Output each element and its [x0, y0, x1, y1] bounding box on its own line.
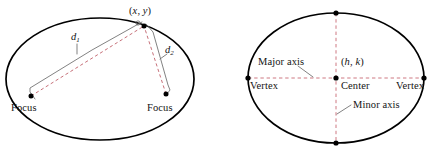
vertex-left-label: Vertex [250, 81, 278, 92]
ellipse-figure-container: (x, y) d1 d2 Focus Focus Major axis (h, … [0, 0, 441, 160]
distance-d1-label: d1 [71, 32, 80, 44]
major-axis-leader-line [298, 66, 313, 77]
paren-close: ) [148, 5, 152, 16]
ellipse-figure-svg [0, 0, 441, 160]
focus-right-label: Focus [147, 103, 173, 114]
co-vertex-top-marker [333, 10, 338, 15]
co-vertex-bottom-marker [333, 140, 338, 145]
distance-d2-dashed-line [144, 26, 166, 94]
paren-close: ) [360, 56, 364, 67]
vertex-right-label: Vertex [396, 81, 424, 92]
d1-leader-line [30, 22, 142, 99]
d2-leader-line [146, 24, 170, 94]
d2-subscript: 2 [170, 49, 174, 57]
point-xy-label: (x, y) [129, 6, 151, 17]
focus-left-marker [29, 94, 34, 99]
distance-d1-dashed-line [31, 26, 144, 96]
distance-d2-label: d2 [165, 45, 174, 57]
center-label: Center [341, 81, 370, 92]
minor-axis-leader-line [337, 105, 351, 114]
center-marker [333, 75, 338, 80]
center-coords-label: (h, k) [341, 57, 364, 68]
minor-axis-label: Minor axis [353, 100, 400, 111]
focus-left-label: Focus [11, 103, 37, 114]
d1-subscript: 1 [76, 36, 80, 44]
major-axis-label: Major axis [258, 57, 304, 68]
left-ellipse-outline [6, 18, 194, 140]
focus-right-marker [164, 92, 169, 97]
right-ellipse-group [245, 10, 426, 145]
point-xy-marker [142, 24, 147, 29]
left-ellipse-group [6, 18, 194, 140]
